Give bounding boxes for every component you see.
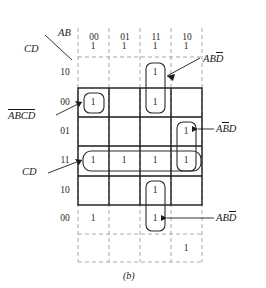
- annotation-cd-left: CD: [22, 167, 37, 178]
- cell-r4-c0: 1: [87, 156, 99, 166]
- annotation-abcd-left: ABCD: [8, 109, 35, 122]
- kmap-drawing: [0, 0, 266, 288]
- annotation-abd-right: ABD: [216, 122, 236, 135]
- annotation-abd-bottom: ABD: [216, 211, 236, 224]
- row-label-5: 00: [57, 214, 73, 224]
- cell-r0-c3: 1: [180, 42, 192, 52]
- cell-r4-c1: 1: [118, 156, 130, 166]
- cell-r2-c2: 1: [149, 98, 161, 108]
- cell-r0-c1: 1: [118, 42, 130, 52]
- annotation-abd-top: ABD: [203, 52, 223, 65]
- term-letter-d-2: D: [229, 124, 237, 135]
- term-letter-d-overbar-2: D: [229, 211, 237, 223]
- row-label-1: 00: [57, 98, 73, 108]
- row-label-2: 01: [57, 127, 73, 137]
- cell-r0-c2: 1: [149, 42, 161, 52]
- row-label-4: 10: [57, 186, 73, 196]
- cell-r5-c2: 1: [149, 186, 161, 196]
- row-label-0: 10: [57, 68, 73, 78]
- figure-caption: (b): [123, 270, 135, 281]
- cell-r4-c3: 1: [180, 156, 192, 166]
- axis-label-ab: AB: [58, 28, 71, 39]
- axis-divider-line: [45, 35, 72, 60]
- cell-r2-c0: 1: [87, 98, 99, 108]
- cell-r3-c3: 1: [180, 127, 192, 137]
- cell-r7-c3: 1: [180, 244, 192, 254]
- term-letter-d-overbar: D: [216, 52, 224, 64]
- karnaugh-map-figure: 00 01 11 10 AB CD 10 00 01 11 10 00 1 1 …: [0, 0, 266, 288]
- cell-r6-c2: 1: [149, 214, 161, 224]
- cell-r6-c0: 1: [87, 214, 99, 224]
- cell-r1-c2: 1: [149, 68, 161, 78]
- term-abcd-overbar: ABCD: [8, 109, 35, 121]
- cell-r4-c2: 1: [149, 156, 161, 166]
- axis-label-cd: CD: [24, 44, 39, 55]
- cell-r0-c0: 1: [87, 42, 99, 52]
- row-label-3: 11: [57, 156, 73, 166]
